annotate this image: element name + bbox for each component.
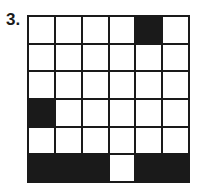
grid-diagram <box>27 15 190 183</box>
grid-cell-empty <box>56 17 81 43</box>
grid-cell-empty <box>136 128 161 154</box>
grid-cell-empty <box>163 45 188 71</box>
grid-cell-filled <box>29 100 54 126</box>
grid-cell-empty <box>83 128 108 154</box>
grid-cell-empty <box>110 128 135 154</box>
grid-cell-empty <box>136 45 161 71</box>
grid-cell-empty <box>83 17 108 43</box>
grid-cell-empty <box>163 128 188 154</box>
grid-cell-filled <box>136 155 161 181</box>
grid-cell-empty <box>136 72 161 98</box>
grid-cell-empty <box>110 155 135 181</box>
grid-cell-empty <box>83 72 108 98</box>
grid-cell-filled <box>163 155 188 181</box>
grid-cell-empty <box>56 72 81 98</box>
grid-cell-empty <box>56 45 81 71</box>
grid-cell-empty <box>163 17 188 43</box>
grid-cell-filled <box>56 155 81 181</box>
grid-cell-empty <box>83 45 108 71</box>
grid-cell-filled <box>136 17 161 43</box>
problem-number: 3. <box>6 11 20 28</box>
grid-cell-empty <box>163 100 188 126</box>
grid-cell-filled <box>83 155 108 181</box>
grid-cell-empty <box>136 100 161 126</box>
grid-cell-empty <box>110 17 135 43</box>
grid-cell-empty <box>29 45 54 71</box>
grid-cell-empty <box>110 45 135 71</box>
grid-cell-empty <box>56 128 81 154</box>
grid-cell-empty <box>110 72 135 98</box>
grid-cell-empty <box>29 72 54 98</box>
grid-cell-empty <box>56 100 81 126</box>
grid-cell-empty <box>163 72 188 98</box>
grid-cell-filled <box>29 155 54 181</box>
grid-cell-empty <box>83 100 108 126</box>
grid-cell-empty <box>29 128 54 154</box>
grid-cell-empty <box>110 100 135 126</box>
grid-cell-empty <box>29 17 54 43</box>
